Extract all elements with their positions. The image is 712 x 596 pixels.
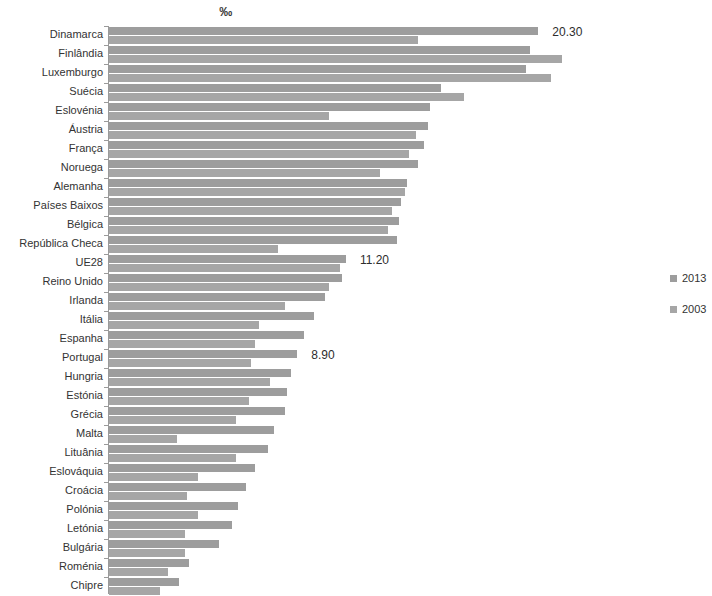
bar-2003 xyxy=(109,435,177,443)
category-label: Países Baixos xyxy=(33,199,103,212)
bar-row: Espanha xyxy=(0,330,712,349)
bar-row: Luxemburgo xyxy=(0,64,712,83)
bar-row: Malta xyxy=(0,425,712,444)
axis-tick xyxy=(104,501,108,502)
bar-row: Dinamarca20.30 xyxy=(0,26,712,45)
axis-tick xyxy=(104,463,108,464)
bar-2003 xyxy=(109,150,409,158)
bar-2013 xyxy=(109,293,325,301)
bar-2013 xyxy=(109,46,530,54)
category-label: Estónia xyxy=(66,389,103,402)
axis-tick xyxy=(104,368,108,369)
bar-2013 xyxy=(109,65,526,73)
bar-2013 xyxy=(109,122,428,130)
bar-2003 xyxy=(109,587,160,595)
bar-2003 xyxy=(109,226,388,234)
bar-2003 xyxy=(109,302,285,310)
axis-tick xyxy=(104,121,108,122)
bar-row: Eslovénia xyxy=(0,102,712,121)
bar-2013 xyxy=(109,141,424,149)
bar-2003 xyxy=(109,169,380,177)
legend-label: 2013 xyxy=(682,272,706,284)
legend-item-2003[interactable]: 2003 xyxy=(670,303,706,315)
bar-2013 xyxy=(109,350,297,358)
bar-2003 xyxy=(109,454,236,462)
axis-tick xyxy=(104,406,108,407)
axis-tick xyxy=(104,45,108,46)
bar-2003 xyxy=(109,131,416,139)
bar-2013 xyxy=(109,521,232,529)
bar-2013 xyxy=(109,179,407,187)
axis-tick xyxy=(104,178,108,179)
bar-row: Estónia xyxy=(0,387,712,406)
category-label: Lituânia xyxy=(64,446,103,459)
bar-row: Países Baixos xyxy=(0,197,712,216)
bar-2003 xyxy=(109,359,251,367)
bar-row: UE2811.20 xyxy=(0,254,712,273)
axis-tick xyxy=(104,26,108,27)
bar-row: Eslováquia xyxy=(0,463,712,482)
category-label: Suécia xyxy=(69,85,103,98)
bar-2003 xyxy=(109,416,236,424)
bar-row: Croácia xyxy=(0,482,712,501)
bar-row: França xyxy=(0,140,712,159)
bar-2013 xyxy=(109,312,314,320)
bar-2003 xyxy=(109,188,405,196)
bar-row: Reino Unido xyxy=(0,273,712,292)
chart-container: ‰ Dinamarca20.30FinlândiaLuxemburgoSuéci… xyxy=(0,0,712,596)
axis-tick xyxy=(104,539,108,540)
category-label: Alemanha xyxy=(53,180,103,193)
axis-tick xyxy=(104,520,108,521)
bar-2013 xyxy=(109,445,268,453)
bar-2013 xyxy=(109,217,399,225)
category-label: França xyxy=(69,142,103,155)
bar-2003 xyxy=(109,283,329,291)
category-label: Reino Unido xyxy=(42,275,103,288)
bar-row: Noruega xyxy=(0,159,712,178)
axis-tick xyxy=(104,140,108,141)
category-label: Polónia xyxy=(66,503,103,516)
chart-legend: 20132003 xyxy=(670,272,706,334)
bar-row: Itália xyxy=(0,311,712,330)
axis-tick xyxy=(104,482,108,483)
bar-2013 xyxy=(109,407,285,415)
category-label: Chipre xyxy=(71,579,103,592)
bar-2013 xyxy=(109,388,287,396)
axis-tick xyxy=(104,292,108,293)
bar-2013 xyxy=(109,369,291,377)
bar-2013 xyxy=(109,464,255,472)
bar-2003 xyxy=(109,492,187,500)
bar-2003 xyxy=(109,36,418,44)
bar-2003 xyxy=(109,511,198,519)
bar-2003 xyxy=(109,568,168,576)
bar-value-label: 20.30 xyxy=(552,26,582,39)
category-label: Noruega xyxy=(61,161,103,174)
bar-2013 xyxy=(109,540,219,548)
plot-area: Dinamarca20.30FinlândiaLuxemburgoSuéciaE… xyxy=(0,26,712,596)
category-label: Espanha xyxy=(60,332,103,345)
axis-tick xyxy=(104,425,108,426)
legend-swatch-icon xyxy=(670,275,677,282)
bar-2003 xyxy=(109,549,185,557)
axis-tick xyxy=(104,330,108,331)
bar-2013 xyxy=(109,483,246,491)
axis-tick xyxy=(104,273,108,274)
bar-2013 xyxy=(109,84,441,92)
axis-tick xyxy=(104,349,108,350)
bar-2013 xyxy=(109,160,418,168)
axis-tick xyxy=(104,64,108,65)
legend-item-2013[interactable]: 2013 xyxy=(670,272,706,284)
category-label: Eslovénia xyxy=(55,104,103,117)
bar-2013 xyxy=(109,331,304,339)
bar-2003 xyxy=(109,340,255,348)
axis-tick xyxy=(104,558,108,559)
bar-row: Polónia xyxy=(0,501,712,520)
bar-2003 xyxy=(109,207,392,215)
axis-tick xyxy=(104,197,108,198)
bar-2003 xyxy=(109,530,185,538)
axis-tick xyxy=(104,387,108,388)
bar-2003 xyxy=(109,112,329,120)
chart-title: ‰ xyxy=(0,4,582,19)
category-label: Finlândia xyxy=(58,47,103,60)
axis-tick xyxy=(104,444,108,445)
